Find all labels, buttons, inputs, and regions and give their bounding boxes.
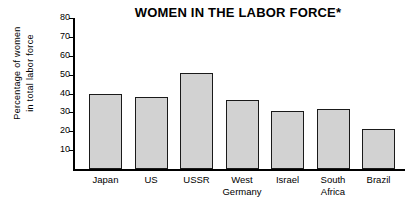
y-tick-label: 60 — [60, 50, 70, 61]
bar — [135, 97, 168, 169]
y-tick-label: 20 — [60, 125, 70, 136]
y-tick-label: 80 — [60, 12, 70, 23]
y-tick-label: 30 — [60, 106, 70, 117]
bar — [362, 129, 395, 169]
y-axis-label-line-2: in total labor force — [24, 34, 37, 112]
bar — [271, 111, 304, 170]
x-axis-spine — [73, 169, 405, 171]
y-tick-label: 50 — [60, 69, 70, 80]
bar-chart-figure: WOMEN IN THE LABOR FORCE* Percentage of … — [0, 0, 412, 204]
y-tick-label: 10 — [60, 144, 70, 155]
y-axis-label: Percentage of women in total labor force — [7, 12, 41, 134]
bar — [226, 100, 259, 169]
plot-area: 1020304050607080 JapanUSUSSRWest Germany… — [73, 18, 405, 170]
y-axis-label-line-1: Percentage of women — [11, 26, 24, 119]
y-tick-label: 70 — [60, 31, 70, 42]
x-axis-label-brazil: Brazil — [352, 174, 405, 186]
bar — [89, 94, 122, 169]
bar — [317, 109, 350, 169]
y-tick-label: 40 — [60, 88, 70, 99]
bar — [180, 73, 213, 169]
